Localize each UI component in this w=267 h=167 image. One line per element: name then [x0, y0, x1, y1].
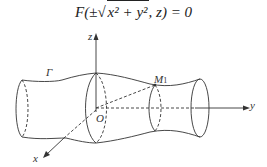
x-axis [47, 138, 64, 154]
x-axis-label: x [33, 152, 38, 164]
surface-bottom-profile [22, 130, 200, 143]
y-axis-label: y [250, 99, 255, 111]
x-axis-hidden [64, 110, 96, 138]
z-axis-label: z [88, 30, 92, 42]
surface-of-revolution-diagram: F(±√x² + y², z) = 0 [0, 0, 267, 167]
origin-label: O [96, 112, 104, 124]
left-cap-back [22, 80, 28, 137]
curve-gamma-label: Γ [46, 66, 52, 78]
middle-section-front [86, 73, 97, 143]
point-m1-label: M1 [154, 73, 167, 85]
z-axis-arrow-icon [94, 33, 99, 40]
point-subscript: 1 [163, 76, 167, 85]
diagram-canvas [0, 0, 267, 167]
y-axis-arrow-icon [243, 106, 250, 111]
radius-to-m1 [96, 85, 155, 108]
left-cap-front [16, 80, 22, 137]
point-m-letter: M [154, 73, 163, 85]
